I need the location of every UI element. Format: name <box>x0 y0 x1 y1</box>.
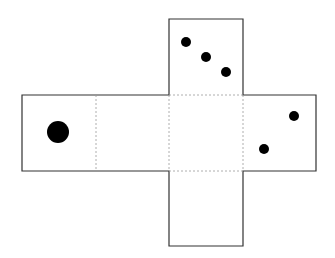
pip-left <box>47 121 69 143</box>
cube-net-diagram <box>0 0 335 258</box>
pip-right <box>289 111 299 121</box>
pip-top <box>181 37 191 47</box>
pip-right <box>259 144 269 154</box>
pip-top <box>221 67 231 77</box>
pip-top <box>201 52 211 62</box>
